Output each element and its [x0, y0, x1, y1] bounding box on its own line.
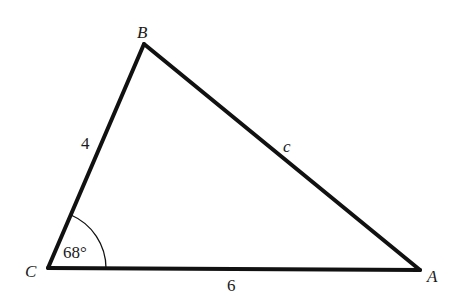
- side-ca: [48, 268, 420, 270]
- vertex-label-b: B: [137, 23, 148, 42]
- vertex-label-a: A: [426, 267, 438, 286]
- side-label-ba: c: [283, 137, 291, 156]
- side-label-cb: 4: [81, 134, 90, 153]
- vertex-label-c: C: [25, 262, 37, 281]
- side-ba: [144, 44, 420, 270]
- angle-label-c: 68°: [63, 243, 87, 262]
- side-label-ca: 6: [227, 276, 236, 295]
- side-cb: [48, 44, 144, 268]
- triangle-svg: B C A 4 c 6 68°: [0, 0, 458, 303]
- triangle-diagram: B C A 4 c 6 68°: [0, 0, 458, 303]
